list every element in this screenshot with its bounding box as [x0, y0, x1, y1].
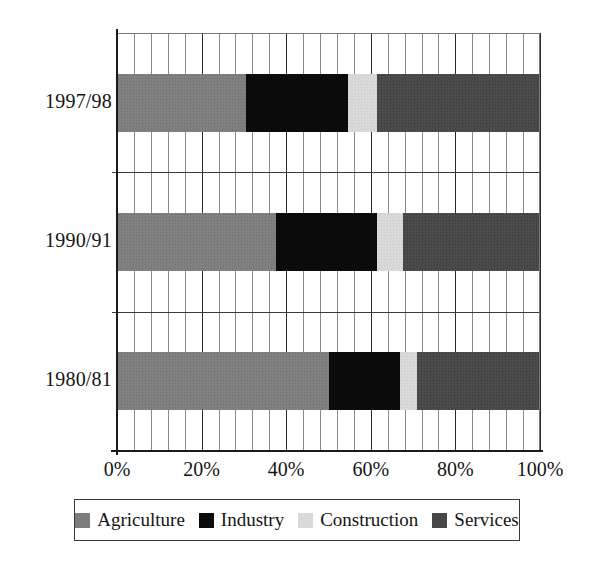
bar-segment-agriculture — [117, 352, 329, 410]
legend-swatch-construction-icon — [298, 513, 313, 528]
bar-segment-services — [417, 352, 540, 410]
group-divider — [112, 312, 540, 313]
bar-segment-construction — [377, 213, 402, 271]
category-label: 1997/98 — [12, 90, 112, 113]
bar-row — [117, 213, 540, 271]
bar-segment-services — [403, 213, 540, 271]
x-axis: 0%20%40%60%80%100% — [117, 452, 540, 486]
bar-segment-services — [377, 74, 540, 132]
bar-segment-industry — [329, 352, 401, 410]
x-tick-label: 80% — [437, 458, 474, 481]
category-axis: 1997/981990/911980/81 — [8, 33, 112, 451]
bar-segment-construction — [348, 74, 378, 132]
legend-item-industry[interactable]: Industry — [199, 509, 284, 531]
y-axis-spine — [116, 29, 118, 455]
x-tick-label: 0% — [104, 458, 131, 481]
category-label: 1980/81 — [12, 368, 112, 391]
x-tick-label: 20% — [183, 458, 220, 481]
legend-item-construction[interactable]: Construction — [298, 509, 418, 531]
legend-label: Services — [454, 509, 518, 531]
x-tick-label: 60% — [352, 458, 389, 481]
x-tick-label: 100% — [517, 458, 564, 481]
legend-swatch-agriculture-icon — [75, 513, 90, 528]
legend-label: Agriculture — [97, 509, 185, 531]
legend-item-services[interactable]: Services — [432, 509, 518, 531]
legend-label: Industry — [221, 509, 284, 531]
group-divider — [112, 172, 540, 173]
bar-segment-construction — [400, 352, 417, 410]
x-tick-label: 40% — [268, 458, 305, 481]
legend-label: Construction — [320, 509, 418, 531]
legend-item-agriculture[interactable]: Agriculture — [75, 509, 185, 531]
gridline-major — [540, 33, 541, 451]
chart-legend: AgricultureIndustryConstructionServices — [74, 499, 520, 541]
bar-segment-industry — [276, 213, 378, 271]
legend-swatch-services-icon — [432, 513, 447, 528]
bar-segment-industry — [246, 74, 348, 132]
bar-segment-agriculture — [117, 213, 276, 271]
bar-segment-agriculture — [117, 74, 246, 132]
plot-area — [117, 33, 540, 451]
bar-row — [117, 352, 540, 410]
category-label: 1990/91 — [12, 229, 112, 252]
legend-swatch-industry-icon — [199, 513, 214, 528]
bar-row — [117, 74, 540, 132]
stacked-bar-chart-figure: 1997/981990/911980/81 0%20%40%60%80%100%… — [0, 0, 596, 572]
